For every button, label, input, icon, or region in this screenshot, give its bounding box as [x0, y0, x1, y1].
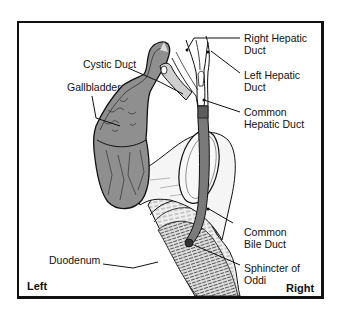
- label-common-hepatic-duct-line1: Common: [244, 106, 287, 118]
- label-left-hepatic-duct-line2: Duct: [244, 81, 300, 93]
- label-right-hepatic-duct: Right Hepatic Duct: [244, 32, 307, 56]
- leader-right-hepatic: [187, 38, 240, 50]
- label-left-hepatic-duct: Left Hepatic Duct: [244, 69, 300, 93]
- label-sphincter-of-oddi-line1: Sphincter of: [244, 262, 300, 274]
- leader-common-hepatic: [204, 100, 240, 112]
- orientation-right-label: Right: [286, 282, 314, 294]
- cystic-duct-shape: [160, 63, 192, 100]
- label-common-hepatic-duct-line2: Hepatic Duct: [244, 118, 304, 130]
- label-right-hepatic-duct-line2: Duct: [244, 44, 307, 56]
- label-left-hepatic-duct-line1: Left Hepatic: [244, 69, 300, 81]
- leader-left-hepatic: [211, 51, 240, 73]
- hepatic-ducts-shape: [172, 36, 209, 108]
- label-common-bile-duct-line2: Bile Duct: [244, 238, 287, 250]
- leader-duodenum: [103, 262, 158, 268]
- orientation-left-label: Left: [27, 280, 47, 292]
- label-common-bile-duct-line1: Common: [244, 226, 287, 238]
- label-cystic-duct: Cystic Duct: [83, 58, 136, 70]
- label-gallbladder: Gallbladder: [67, 81, 121, 93]
- label-common-bile-duct: Common Bile Duct: [244, 226, 287, 250]
- label-common-hepatic-duct: Common Hepatic Duct: [244, 106, 304, 130]
- label-right-hepatic-duct-line1: Right Hepatic: [244, 32, 307, 44]
- label-duodenum: Duodenum: [49, 254, 100, 266]
